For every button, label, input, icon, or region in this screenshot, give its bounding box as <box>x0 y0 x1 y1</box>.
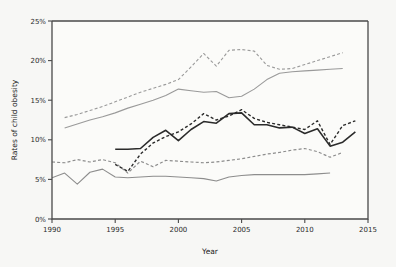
y-tick-label: 10% <box>30 136 46 144</box>
line-chart: 0%5%10%15%20%25%199019952000200520102015… <box>0 0 396 267</box>
chart-container: 0%5%10%15%20%25%199019952000200520102015… <box>0 0 396 267</box>
y-axis-title: Rates of child obesity <box>10 79 19 160</box>
y-tick-label: 0% <box>35 216 46 224</box>
y-tick-label: 25% <box>30 18 46 26</box>
y-tick-label: 15% <box>30 97 46 105</box>
y-tick-label: 5% <box>35 176 46 184</box>
x-tick-label: 2010 <box>296 226 314 234</box>
plot-area <box>52 21 368 219</box>
x-tick-label: 2000 <box>169 226 187 234</box>
x-tick-label: 1990 <box>43 226 61 234</box>
y-tick-label: 20% <box>30 57 46 65</box>
x-tick-label: 2015 <box>359 226 377 234</box>
x-axis-title: Year <box>201 247 219 256</box>
plot-area-background <box>52 21 368 219</box>
x-tick-label: 2005 <box>233 226 251 234</box>
x-tick-label: 1995 <box>106 226 124 234</box>
